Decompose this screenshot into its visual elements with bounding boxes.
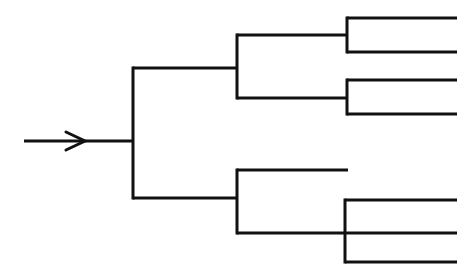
tree-diagram-svg — [0, 0, 474, 274]
input-arrow — [24, 132, 133, 150]
root-split-node — [133, 67, 237, 200]
diagram-canvas — [0, 0, 474, 274]
upper-split-node — [237, 34, 347, 100]
lower-leaf-split-node — [345, 199, 457, 264]
upper-leaf-split-a-node — [347, 17, 457, 54]
upper-leaf-split-b-node — [347, 79, 457, 116]
